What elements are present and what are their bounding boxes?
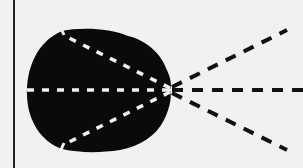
diagram-canvas [0,0,303,168]
focal-point [169,89,172,92]
